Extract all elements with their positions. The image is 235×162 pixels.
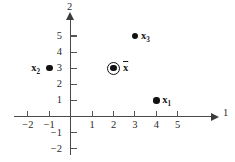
x-axis-tick-label: −2 [18, 120, 38, 131]
y-axis-tick-label: 5 [48, 31, 62, 42]
x-axis-tick [134, 111, 135, 117]
x-axis-tick-label: 5 [168, 120, 188, 131]
y-axis-tick-label: 2 [48, 79, 62, 90]
mean-point-label: x [123, 63, 128, 74]
data-point-x1[interactable] [153, 97, 159, 103]
y-axis-line [70, 17, 71, 155]
y-axis-arrow-icon [66, 12, 74, 20]
x-axis-tick-label: 1 [82, 120, 102, 131]
y-axis-tick [71, 35, 77, 36]
y-axis-tick [71, 68, 77, 69]
y-axis-tick-label: −1 [48, 128, 62, 139]
x-axis-tick [92, 111, 93, 117]
data-point-label-x1: x1 [162, 95, 171, 108]
x-axis-tick-label: 3 [125, 120, 145, 131]
y-axis-tick [71, 52, 77, 53]
x-axis-tick-label: 2 [104, 120, 124, 131]
x-axis-tick [156, 111, 157, 117]
y-axis-tick-label: 4 [48, 47, 62, 58]
y-axis-label: 2 [67, 2, 72, 13]
y-axis-tick-label: 1 [48, 95, 62, 106]
data-point-x3[interactable] [132, 33, 138, 39]
x-axis-tick [49, 111, 50, 117]
y-axis-tick [71, 148, 77, 149]
x-axis-tick [177, 111, 178, 117]
y-axis-tick [71, 100, 77, 101]
x-axis-arrow-icon [211, 113, 219, 121]
x-axis-line [14, 116, 215, 117]
data-point-label-x3: x3 [141, 31, 150, 44]
x-axis-label: 1 [223, 108, 228, 119]
x-axis-tick [27, 111, 28, 117]
y-axis-tick [71, 84, 77, 85]
x-axis-tick-label: 4 [146, 120, 166, 131]
mean-marker-dot[interactable] [110, 65, 116, 71]
y-axis-tick-label: −2 [48, 144, 62, 155]
data-point-x2[interactable] [46, 65, 52, 71]
x-axis-tick [113, 111, 114, 117]
y-axis-tick [71, 132, 77, 133]
scatter-plot-figure: 1 2 −2−11234554321−1−2 x1x2x3x [0, 0, 235, 162]
data-point-label-x2: x2 [31, 63, 40, 76]
